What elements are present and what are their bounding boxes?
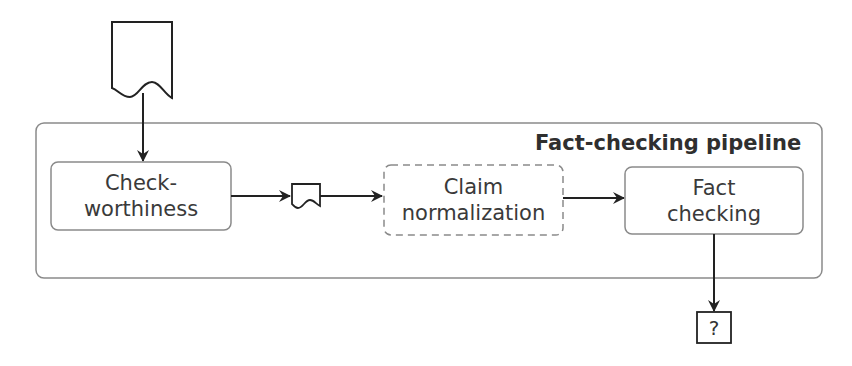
input-document-icon — [112, 22, 172, 98]
stage-label-line1: Check- — [105, 170, 177, 196]
stage-label-claim-normalization: Claim normalization — [384, 165, 563, 235]
stage-label-line2: normalization — [402, 200, 546, 226]
stage-label-line2: worthiness — [84, 196, 198, 222]
output-symbol: ? — [697, 315, 731, 343]
stage-label-line1: Fact — [693, 175, 736, 201]
intermediate-document-icon — [292, 184, 320, 208]
stage-label-line1: Claim — [444, 174, 504, 200]
stage-label-check-worthiness: Check- worthiness — [51, 162, 231, 230]
stage-label-line2: checking — [667, 201, 761, 227]
pipeline-title: Fact-checking pipeline — [535, 131, 801, 155]
stage-label-fact-checking: Fact checking — [625, 167, 803, 234]
